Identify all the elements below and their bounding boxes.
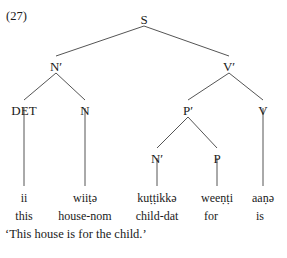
terminal-word-1: ii xyxy=(21,192,28,204)
gloss-3: child-dat xyxy=(136,210,179,222)
node-v: V xyxy=(258,104,267,117)
branch-pbar-to-nbar2 xyxy=(157,117,188,148)
example-number: (27) xyxy=(6,10,27,23)
node-s: S xyxy=(140,13,147,26)
node-p-bar: P′ xyxy=(183,104,193,117)
syntax-tree-figure: (27) S N′ V′ DET N P′ V N′ P ii wiiṭə ku… xyxy=(0,0,287,258)
branch-s-to-vbar xyxy=(144,26,229,56)
gloss-1: this xyxy=(15,210,32,222)
gloss-2: house-nom xyxy=(58,210,111,222)
gloss-5: is xyxy=(256,210,264,222)
terminal-word-5: aaṇə xyxy=(252,192,274,204)
terminal-word-4: weeṇṭi xyxy=(201,192,233,204)
branch-nbar-to-det xyxy=(24,73,56,100)
free-translation: ‘This house is for the child.’ xyxy=(5,228,147,241)
gloss-4: for xyxy=(204,210,218,222)
terminal-word-3: kuṭṭikkə xyxy=(137,192,176,204)
node-v-bar: V′ xyxy=(223,60,235,73)
node-n: N xyxy=(80,104,89,117)
branch-nbar-to-n xyxy=(56,73,85,100)
branch-vbar-to-v xyxy=(229,73,263,100)
node-n-bar: N′ xyxy=(50,60,62,73)
node-p: P xyxy=(213,152,220,165)
branch-s-to-nbar xyxy=(56,26,144,56)
node-det: DET xyxy=(11,104,36,117)
terminal-word-2: wiiṭə xyxy=(73,192,97,204)
branch-pbar-to-p xyxy=(188,117,217,148)
node-n-bar-2: N′ xyxy=(151,152,163,165)
branch-vbar-to-pbar xyxy=(188,73,229,100)
